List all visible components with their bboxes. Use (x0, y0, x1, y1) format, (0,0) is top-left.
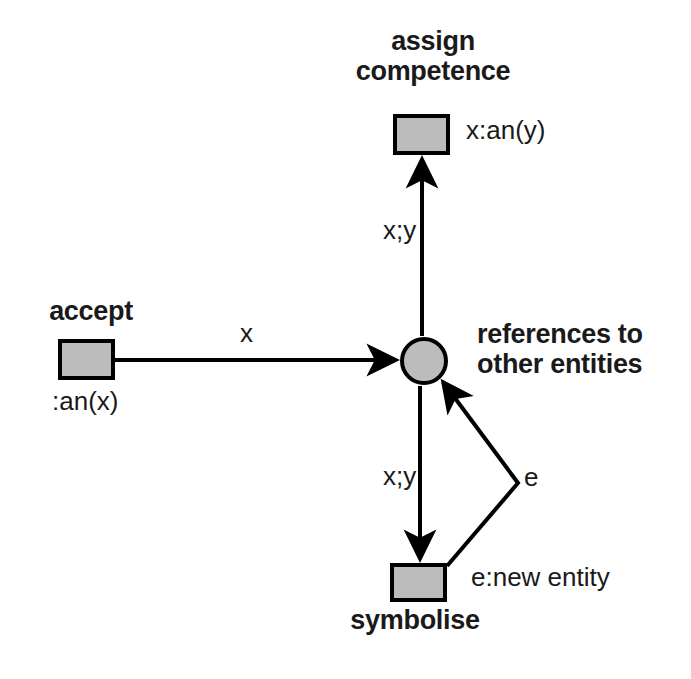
label-references-line2: other entities (477, 349, 642, 379)
edge-label-symbolise-to-place: e (524, 463, 538, 492)
label-assign-competence: assigncompetence (342, 26, 524, 86)
node-assign-competence[interactable] (393, 114, 450, 155)
label-references-place: references toother entities (477, 319, 687, 379)
edge-label-place-to-symbolise: x;y (383, 462, 416, 491)
diagram-canvas: assigncompetence x:an(y) accept :an(x) r… (0, 0, 691, 679)
edge-symbolise-to-place (443, 382, 518, 566)
label-assign-line1: assign (391, 26, 475, 56)
node-references-place[interactable] (400, 337, 448, 385)
label-references-line1: references to (477, 319, 643, 349)
node-symbolise[interactable] (390, 563, 447, 602)
label-assign-line2: competence (356, 56, 511, 86)
annotation-assign-competence: x:an(y) (466, 116, 545, 145)
annotation-symbolise: e:new entity (471, 563, 610, 592)
label-accept: accept (30, 296, 152, 326)
node-accept[interactable] (58, 339, 115, 380)
edge-label-place-to-assign: x;y (383, 216, 416, 245)
edge-label-accept-to-place: x (240, 319, 253, 348)
annotation-accept: :an(x) (52, 387, 118, 416)
label-symbolise: symbolise (342, 605, 488, 635)
